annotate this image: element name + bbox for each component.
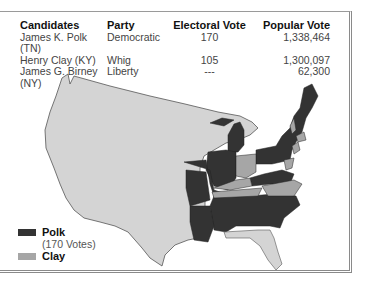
legend-label: Clay <box>42 250 65 262</box>
map-legend: Polk (170 Votes) Clay <box>18 226 96 262</box>
legend-item-clay: Clay <box>18 250 96 262</box>
florida-region <box>224 230 282 270</box>
clay-swatch <box>18 253 36 260</box>
legend-item-polk: Polk <box>18 226 96 238</box>
legend-label: Polk <box>42 226 65 238</box>
legend-sublabel: (170 Votes) <box>42 238 96 250</box>
polk-swatch <box>18 229 36 236</box>
